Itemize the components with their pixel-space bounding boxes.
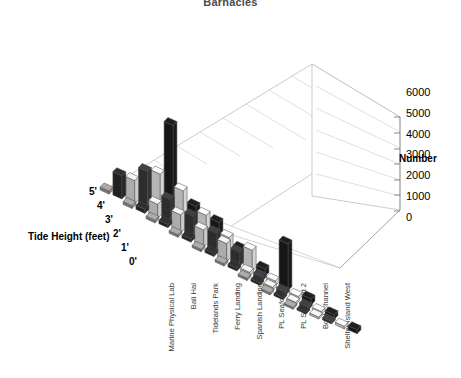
ytick-4000: 4000: [406, 128, 430, 140]
bar-chart-3d: 6000 5000 4000 3000 2000 1000 0 Number 5…: [0, 0, 461, 378]
tide-axis-title: Tide Height (feet): [28, 231, 109, 242]
chart-canvas: Barnacles: [0, 0, 461, 378]
ztick-0ft: 0': [129, 256, 137, 267]
ztick-1ft: 1': [121, 242, 129, 253]
ytick-6000: 6000: [406, 86, 430, 98]
number-axis-title: Number: [399, 153, 437, 164]
site-label-shelter-island-west: Shelter Island West: [343, 282, 352, 349]
ztick-3ft: 3': [105, 214, 113, 225]
ytick-2000: 2000: [406, 169, 430, 181]
bar-marine-physical-lab-1ft-front: [122, 172, 126, 199]
ytick-0: 0: [406, 211, 412, 223]
bar-pl-seafood-1-5ft-left: [279, 240, 288, 291]
site-label-bali-hai: Bali Hai: [189, 283, 198, 309]
ytick-1000: 1000: [406, 190, 430, 202]
right-wall: [312, 64, 400, 210]
site-label-marine-physical-lab: Marine Physical Lab: [167, 283, 176, 351]
ztick-5ft: 5': [89, 186, 97, 197]
ztick-4ft: 4': [97, 200, 105, 211]
ztick-2ft: 2': [113, 228, 121, 239]
bar-spanish-landing-4ft-front: [252, 246, 256, 271]
bar-marine-physical-lab-2ft-front: [135, 177, 139, 204]
ytick-5000: 5000: [406, 107, 430, 119]
site-label-ferry-landing: Ferry Landing: [233, 283, 242, 330]
bar-pl-seafood-1-5ft-front: [288, 240, 292, 291]
bar-marine-physical-lab-1ft-left: [113, 172, 122, 199]
site-label-tidelands-park: Tidelands Park: [211, 283, 220, 334]
